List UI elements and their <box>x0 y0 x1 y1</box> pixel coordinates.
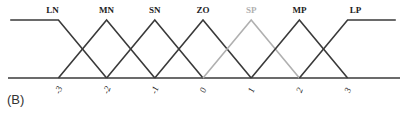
membership-curve-mp <box>251 20 347 78</box>
x-tick-label: 1 <box>246 86 257 94</box>
membership-curve-sp <box>203 20 299 78</box>
x-tick-label: -3 <box>52 84 64 95</box>
mf-label-sp: SP <box>246 5 257 15</box>
membership-curve-ln <box>10 20 106 78</box>
mf-label-lp: LP <box>350 5 362 15</box>
membership-function-diagram: LNMNSNZOSPMPLP-3-2-10123 <box>0 0 405 116</box>
mf-label-sn: SN <box>149 5 161 15</box>
x-tick-label: 3 <box>342 86 353 95</box>
x-tick-label: 2 <box>294 86 305 94</box>
membership-curve-lp <box>299 20 395 78</box>
x-tick-label: -1 <box>149 85 161 95</box>
membership-curve-zo <box>155 20 251 78</box>
x-tick-label: 0 <box>198 86 209 94</box>
mf-label-ln: LN <box>46 5 59 15</box>
panel-label: (B) <box>7 92 24 107</box>
x-tick-label: -2 <box>101 84 113 95</box>
membership-curve-mn <box>58 20 154 78</box>
membership-curve-sn <box>107 20 203 78</box>
mf-label-mn: MN <box>99 5 114 15</box>
mf-label-zo: ZO <box>196 5 209 15</box>
mf-label-mp: MP <box>292 5 306 15</box>
